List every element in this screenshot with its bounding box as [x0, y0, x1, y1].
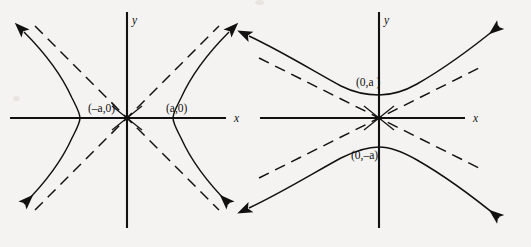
y-axis-label-right: y [383, 14, 390, 27]
panel-vertical-hyperbola: (0,a ) (0,–a) x y [265, 0, 531, 247]
panel-horizontal-hyperbola: (–a,0) (a,0) x y [0, 0, 266, 247]
vertex-label-right-negative: (0,–a) [351, 149, 378, 162]
horizontal-hyperbola-svg: (–a,0) (a,0) x y [0, 0, 266, 247]
hyperbola-figure: (–a,0) (a,0) x y [0, 0, 531, 247]
y-axis-label-left: y [131, 14, 138, 27]
vertical-hyperbola-svg: (0,a ) (0,–a) x y [265, 0, 531, 247]
vertex-label-left-negative: (–a,0) [88, 102, 115, 115]
x-axis-label-left: x [233, 112, 240, 124]
vertex-label-left-positive: (a,0) [166, 102, 188, 115]
x-axis-label-right: x [472, 112, 479, 124]
vertex-label-right-positive: (0,a ) [356, 76, 380, 89]
